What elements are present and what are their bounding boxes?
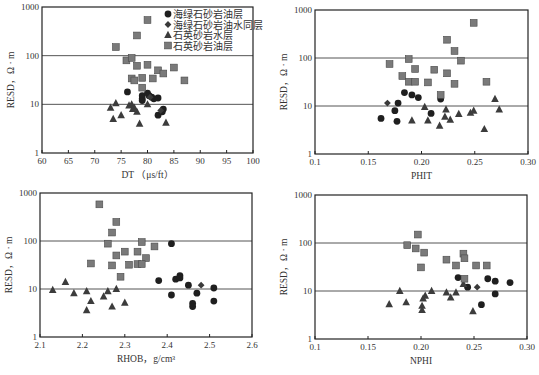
circle-marker bbox=[168, 292, 175, 299]
x-tick-label: 0.15 bbox=[360, 157, 376, 167]
triangle-marker bbox=[112, 99, 120, 106]
square-marker bbox=[399, 73, 406, 80]
legend-item: 石英砂岩油层 bbox=[165, 40, 233, 52]
square-marker bbox=[113, 252, 120, 259]
square-marker bbox=[126, 261, 133, 268]
scatter-plot-phit: 0.10.150.200.250.301101001000PHITRESD，Ω … bbox=[270, 0, 539, 187]
square-marker bbox=[113, 218, 120, 225]
y-axis-label: RESD，Ω · m bbox=[279, 53, 289, 110]
triangle-marker bbox=[83, 306, 91, 313]
circle-marker bbox=[378, 115, 385, 122]
square-marker bbox=[453, 262, 460, 269]
circle-marker bbox=[391, 107, 398, 114]
circle-marker bbox=[189, 303, 196, 310]
x-tick-label: 85 bbox=[169, 156, 179, 166]
y-tick-label: 1 bbox=[308, 334, 313, 344]
x-tick-label: 0.20 bbox=[413, 342, 429, 352]
circle-marker bbox=[484, 275, 491, 282]
y-tick-label: 100 bbox=[299, 53, 313, 63]
x-tick-label: 75 bbox=[117, 156, 127, 166]
square-marker bbox=[112, 44, 119, 51]
x-tick-label: 0.25 bbox=[467, 157, 483, 167]
circle-marker bbox=[193, 290, 200, 297]
triangle-marker bbox=[441, 112, 449, 119]
square-marker bbox=[470, 19, 477, 26]
x-axis-label: NPHI bbox=[410, 356, 432, 366]
x-tick-label: 95 bbox=[222, 156, 232, 166]
x-tick-label: 2.5 bbox=[204, 340, 216, 350]
y-axis-label: RESD，Ω · m bbox=[279, 238, 289, 295]
x-tick-label: 2.3 bbox=[119, 340, 131, 350]
square-marker bbox=[431, 66, 438, 73]
x-tick-label: 2.6 bbox=[246, 340, 258, 350]
square-marker bbox=[109, 229, 116, 236]
square-marker bbox=[386, 61, 393, 68]
circle-marker bbox=[168, 240, 175, 247]
circle-marker bbox=[185, 282, 192, 289]
y-tick-label: 10 bbox=[28, 284, 38, 294]
triangle-marker bbox=[162, 118, 170, 125]
x-tick-label: 2.2 bbox=[77, 340, 88, 350]
x-tick-label: 0.20 bbox=[414, 157, 430, 167]
x-tick-label: 90 bbox=[196, 156, 206, 166]
triangle-marker bbox=[421, 291, 429, 298]
x-axis-label: PHIT bbox=[411, 171, 432, 181]
y-axis-label: RESD，Ω · m bbox=[6, 51, 16, 108]
square-marker bbox=[149, 75, 156, 82]
circle-marker bbox=[455, 274, 462, 281]
square-marker bbox=[134, 248, 141, 255]
square-marker bbox=[144, 61, 151, 68]
square-marker bbox=[131, 77, 138, 84]
legend-label: 石英砂岩油层 bbox=[173, 40, 233, 52]
square-marker bbox=[412, 245, 419, 252]
chart-panel-dt: 60657075808590951001101001000DT （μs/ft）R… bbox=[0, 0, 270, 187]
triangle-marker bbox=[452, 288, 460, 295]
square-marker bbox=[461, 255, 468, 262]
square-marker bbox=[444, 36, 451, 43]
circle-marker bbox=[124, 89, 131, 96]
circle-marker bbox=[177, 275, 184, 282]
chart-panel-nphi: 0.10.150.200.250.301101001000NPHIRESD，Ω … bbox=[270, 187, 539, 375]
y-tick-label: 100 bbox=[26, 51, 40, 61]
circle-marker bbox=[210, 298, 217, 305]
y-tick-label: 10 bbox=[30, 99, 40, 109]
square-marker bbox=[451, 80, 458, 87]
diamond-marker bbox=[384, 100, 391, 107]
square-marker bbox=[404, 242, 411, 249]
square-marker bbox=[117, 273, 124, 280]
x-tick-label: 100 bbox=[246, 156, 260, 166]
square-marker bbox=[418, 264, 425, 271]
square-marker bbox=[139, 84, 146, 91]
triangle-marker bbox=[443, 288, 451, 295]
x-tick-label: 2.4 bbox=[162, 340, 174, 350]
triangle-marker bbox=[428, 287, 436, 294]
triangle-marker bbox=[83, 287, 91, 294]
y-tick-label: 100 bbox=[24, 236, 38, 246]
circle-marker bbox=[428, 110, 435, 117]
legend-item: 石英砂岩水层 bbox=[164, 29, 233, 41]
circle-marker bbox=[507, 279, 514, 286]
triangle-marker bbox=[109, 115, 117, 122]
circle-marker bbox=[409, 92, 416, 99]
y-tick-label: 1000 bbox=[19, 188, 38, 198]
circle-marker bbox=[210, 285, 217, 292]
diamond-marker bbox=[474, 284, 481, 291]
triangle-marker bbox=[121, 298, 129, 305]
scatter-plot-nphi: 0.10.150.200.250.301101001000NPHIRESD，Ω … bbox=[270, 187, 539, 375]
square-marker bbox=[170, 64, 177, 71]
triangle-marker bbox=[164, 31, 172, 38]
square-marker bbox=[139, 74, 146, 81]
triangle-marker bbox=[455, 110, 463, 117]
y-tick-label: 1000 bbox=[294, 190, 313, 200]
diamond-marker bbox=[165, 21, 172, 28]
x-tick-label: 0.30 bbox=[520, 157, 536, 167]
square-marker bbox=[443, 256, 450, 263]
triangle-marker bbox=[113, 285, 121, 292]
circle-marker bbox=[478, 301, 485, 308]
y-tick-label: 1 bbox=[33, 332, 38, 342]
triangle-marker bbox=[469, 307, 477, 314]
y-tick-label: 1000 bbox=[21, 2, 40, 12]
circle-marker bbox=[155, 277, 162, 284]
circle-marker bbox=[394, 118, 401, 125]
square-marker bbox=[461, 275, 468, 282]
